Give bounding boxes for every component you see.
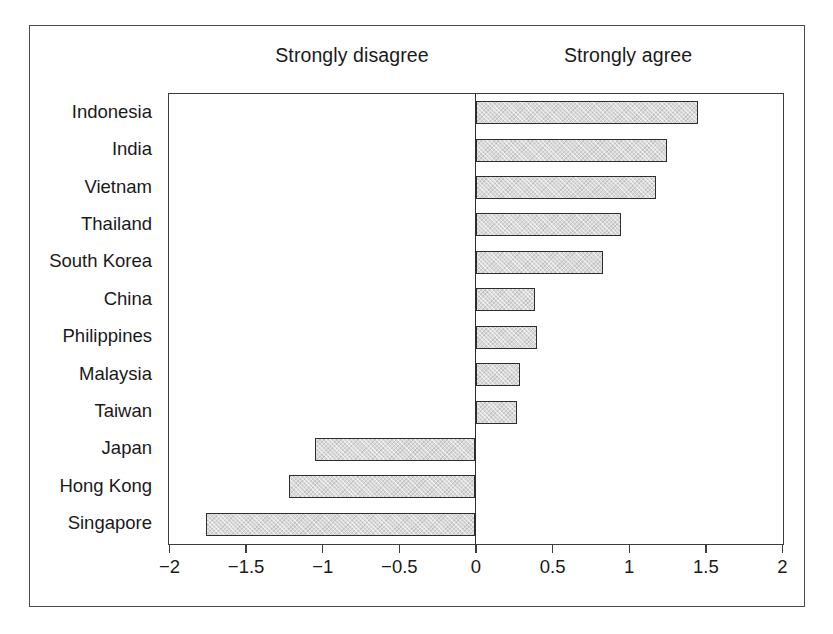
x-tick-mark (169, 545, 170, 553)
bar-malaysia (476, 363, 520, 386)
x-tick-mark (475, 545, 476, 553)
category-label-malaysia: Malaysia (79, 363, 152, 385)
bar-india (476, 139, 668, 162)
x-tick-label: 1.5 (693, 556, 719, 578)
bar-japan (315, 438, 476, 461)
x-tick-mark (399, 545, 400, 553)
plot-area (168, 93, 784, 545)
x-tick-mark (552, 545, 553, 553)
category-label-south-korea: South Korea (49, 250, 152, 272)
category-label-indonesia: Indonesia (72, 101, 152, 123)
x-tick-label: −2 (159, 556, 180, 578)
x-tick-label: 1 (624, 556, 634, 578)
category-label-philippines: Philippines (63, 325, 152, 347)
bar-row (169, 244, 783, 281)
bar-philippines (476, 326, 537, 349)
bar-row (169, 94, 783, 131)
bar-singapore (206, 513, 476, 536)
x-tick-label: 0.5 (540, 556, 566, 578)
x-tick-label: 2 (777, 556, 787, 578)
bar-indonesia (476, 101, 698, 124)
category-label-thailand: Thailand (81, 213, 152, 235)
bar-vietnam (476, 176, 657, 199)
x-tick-mark (629, 545, 630, 553)
x-tick-mark (245, 545, 246, 553)
bar-row (169, 206, 783, 243)
category-label-china: China (104, 288, 152, 310)
bar-row (169, 356, 783, 393)
bar-china (476, 288, 536, 311)
category-axis-labels: IndonesiaIndiaVietnamThailandSouth Korea… (0, 93, 160, 545)
bar-row (169, 131, 783, 168)
bar-row (169, 506, 783, 543)
bar-row (169, 468, 783, 505)
category-label-singapore: Singapore (68, 512, 152, 534)
bar-row (169, 281, 783, 318)
category-label-india: India (112, 138, 152, 160)
category-label-vietnam: Vietnam (84, 176, 152, 198)
x-tick-mark (322, 545, 323, 553)
bar-south-korea (476, 251, 603, 274)
bar-row (169, 169, 783, 206)
x-tick-label: 0 (471, 556, 481, 578)
bar-hong-kong (289, 475, 476, 498)
x-axis: −2−1.5−1−0.500.511.52 (168, 545, 784, 591)
bar-row (169, 431, 783, 468)
bar-row (169, 319, 783, 356)
bars-layer (169, 94, 783, 544)
category-label-japan: Japan (102, 437, 152, 459)
bar-thailand (476, 213, 622, 236)
x-tick-mark (705, 545, 706, 553)
bar-row (169, 393, 783, 430)
x-tick-label: −0.5 (381, 556, 418, 578)
x-tick-label: −1 (312, 556, 333, 578)
category-label-taiwan: Taiwan (94, 400, 152, 422)
figure-container: Strongly disagree Strongly agree Indones… (0, 0, 833, 634)
pole-label-group: Strongly disagree Strongly agree (0, 43, 833, 73)
pole-label-strongly-disagree: Strongly disagree (275, 43, 428, 67)
x-tick-label: −1.5 (228, 556, 265, 578)
category-label-hong-kong: Hong Kong (59, 475, 152, 497)
bar-taiwan (476, 401, 517, 424)
pole-label-strongly-agree: Strongly agree (564, 43, 692, 67)
x-tick-mark (782, 545, 783, 553)
